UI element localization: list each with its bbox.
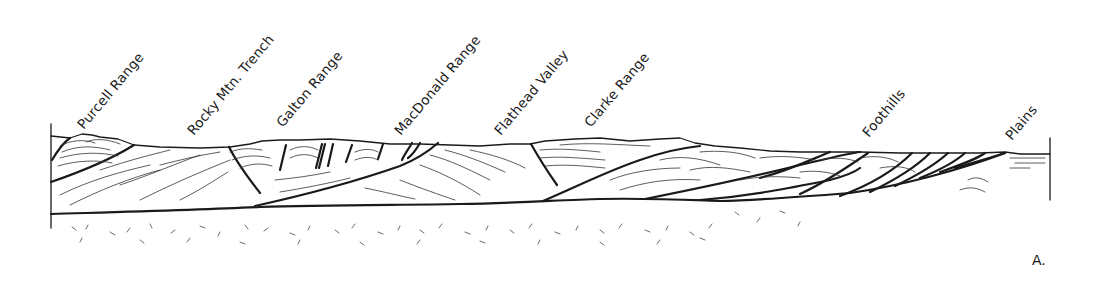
macdonald-fault-7 bbox=[402, 143, 412, 160]
basal-detachment bbox=[51, 153, 1005, 214]
macdonald-fault-1 bbox=[280, 145, 286, 170]
cross-section-drawing bbox=[0, 0, 1093, 287]
foothills-thrust-1 bbox=[760, 152, 830, 178]
macdonald-fault-6 bbox=[378, 144, 383, 159]
macdonald-fault-5 bbox=[346, 145, 352, 162]
topographic-surface bbox=[51, 134, 1050, 154]
purcell-inner-fault bbox=[52, 138, 70, 160]
trench-fault bbox=[229, 147, 260, 193]
cross-section-figure: Purcell Range Rocky Mtn. Trench Galton R… bbox=[0, 0, 1093, 287]
macdonald-fault-4 bbox=[328, 144, 333, 166]
lewis-thrust bbox=[255, 143, 438, 206]
bedding-strata bbox=[58, 140, 1045, 205]
flathead-fault bbox=[531, 144, 557, 185]
panel-label: A. bbox=[1032, 252, 1046, 268]
basement-hatching bbox=[72, 211, 800, 245]
